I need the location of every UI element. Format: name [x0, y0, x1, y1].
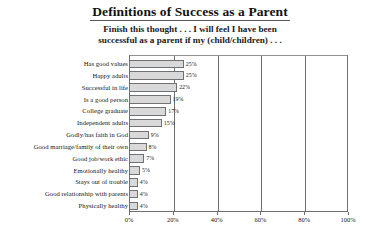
title-block: Definitions of Success as a Parent Finis…: [0, 2, 380, 46]
axis-tick-label: 100%: [341, 216, 356, 224]
bar-value-label: 25%: [184, 60, 197, 69]
bar-row: College graduate17%: [0, 105, 380, 117]
x-axis: 0%20%40%60%80%100%: [129, 212, 348, 234]
bar-row: Successful in life22%: [0, 82, 380, 94]
bar-row: Has good values25%: [0, 58, 380, 70]
bar-track: 4%: [129, 178, 348, 187]
bar-value-label: 4%: [138, 178, 148, 187]
bar: [129, 131, 149, 140]
bar-rows: Has good values25%Happy adults25%Success…: [0, 58, 380, 212]
bar-track: 9%: [129, 131, 348, 140]
bar: [129, 60, 184, 69]
bar-value-label: 4%: [138, 202, 148, 211]
bar-row: Good marriage/family of their own8%: [0, 141, 380, 153]
bar-track: 25%: [129, 60, 348, 69]
axis-tick: [304, 212, 305, 215]
bar-row: Is a good person19%: [0, 94, 380, 106]
bar-value-label: 22%: [177, 83, 190, 92]
axis-tick-label: 0%: [125, 216, 134, 224]
bar-value-label: 19%: [171, 95, 184, 104]
category-label: College graduate: [0, 105, 128, 117]
axis-tick-label: 60%: [255, 216, 267, 224]
category-label: Godly/has faith in God: [0, 129, 128, 141]
axis-tick: [129, 212, 130, 215]
category-label: Good job/work ethic: [0, 153, 128, 165]
category-label: Is a good person: [0, 94, 128, 106]
bar-value-label: 8%: [147, 143, 157, 152]
bar: [129, 202, 138, 211]
bar-row: Godly/has faith in God9%: [0, 129, 380, 141]
category-label: Physically healthy: [0, 200, 128, 212]
subtitle-line-1: Finish this thought . . . I will feel I …: [40, 24, 340, 35]
bar: [129, 154, 144, 163]
bar-track: 4%: [129, 202, 348, 211]
bar-track: 4%: [129, 190, 348, 199]
bar-row: Independent adults15%: [0, 117, 380, 129]
category-label: Good relationship with parents: [0, 188, 128, 200]
axis-tick-label: 80%: [298, 216, 310, 224]
bar-track: 17%: [129, 107, 348, 116]
category-label: Good marriage/family of their own: [0, 141, 128, 153]
bar: [129, 178, 138, 187]
bar: [129, 190, 138, 199]
bar-value-label: 15%: [162, 119, 175, 128]
axis-tick: [348, 212, 349, 215]
category-label: Successful in life: [0, 82, 128, 94]
bar-value-label: 7%: [144, 154, 154, 163]
bar-row: Stays out of trouble4%: [0, 176, 380, 188]
bar: [129, 83, 177, 92]
bar-row: Good relationship with parents4%: [0, 188, 380, 200]
bar: [129, 107, 166, 116]
bar-track: 25%: [129, 71, 348, 80]
bar-row: Good job/work ethic7%: [0, 153, 380, 165]
bar-value-label: 9%: [149, 131, 159, 140]
axis-tick: [260, 212, 261, 215]
bar: [129, 166, 140, 175]
axis-tick-label: 20%: [167, 216, 179, 224]
bar-row: Happy adults25%: [0, 70, 380, 82]
category-label: Independent adults: [0, 117, 128, 129]
bar-track: 22%: [129, 83, 348, 92]
category-label: Happy adults: [0, 70, 128, 82]
bar-value-label: 17%: [166, 107, 179, 116]
bar-track: 15%: [129, 119, 348, 128]
bar: [129, 71, 184, 80]
category-label: Emotionally healthy: [0, 165, 128, 177]
bar: [129, 143, 147, 152]
bar: [129, 95, 171, 104]
bar-track: 5%: [129, 166, 348, 175]
chart-figure: Definitions of Success as a Parent Finis…: [0, 0, 380, 240]
bar-track: 7%: [129, 154, 348, 163]
chart-subtitle: Finish this thought . . . I will feel I …: [0, 24, 380, 46]
axis-tick-label: 40%: [211, 216, 223, 224]
bar-row: Emotionally healthy5%: [0, 165, 380, 177]
subtitle-line-2: successful as a parent if my (child/chil…: [40, 35, 340, 46]
bar-track: 19%: [129, 95, 348, 104]
bar-value-label: 5%: [140, 166, 150, 175]
bar-track: 8%: [129, 143, 348, 152]
category-label: Stays out of trouble: [0, 176, 128, 188]
bar-row: Physically healthy4%: [0, 200, 380, 212]
category-label: Has good values: [0, 58, 128, 70]
bar-value-label: 4%: [138, 190, 148, 199]
bar-value-label: 25%: [184, 71, 197, 80]
axis-tick: [217, 212, 218, 215]
bar: [129, 119, 162, 128]
page-title: Definitions of Success as a Parent: [90, 4, 290, 21]
axis-tick: [173, 212, 174, 215]
